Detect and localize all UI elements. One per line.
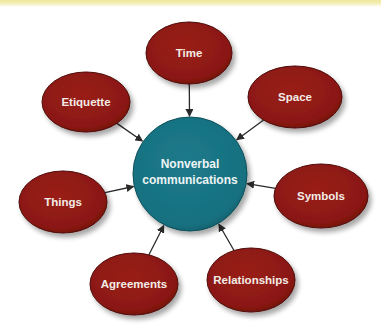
center-label-line2: communications [142, 173, 238, 187]
node-etiquette[interactable]: Etiquette [42, 72, 130, 132]
arrow-relationships [219, 224, 234, 250]
node-label: Agreements [101, 278, 167, 290]
node-symbols[interactable]: Symbols [274, 164, 368, 228]
center-node[interactable]: Nonverbal communications [133, 117, 247, 231]
node-label: Time [176, 47, 203, 59]
node-label: Space [278, 91, 312, 103]
arrow-symbols [247, 184, 275, 189]
node-space[interactable]: Space [248, 66, 342, 128]
node-label: Etiquette [61, 96, 110, 108]
node-label: Things [44, 196, 82, 208]
center-label-line1: Nonverbal [161, 157, 220, 171]
arrow-agreements [149, 226, 164, 255]
arrow-etiquette [117, 123, 142, 141]
node-things[interactable]: Things [19, 171, 107, 233]
arrow-things [105, 187, 133, 193]
node-relationships[interactable]: Relationships [207, 248, 295, 312]
concept-diagram: TimeSpaceEtiquetteThingsSymbolsAgreement… [0, 0, 381, 330]
node-label: Relationships [213, 274, 288, 286]
node-agreements[interactable]: Agreements [90, 253, 178, 315]
arrow-space [237, 120, 264, 140]
node-time[interactable]: Time [146, 22, 232, 84]
node-label: Symbols [297, 190, 345, 202]
